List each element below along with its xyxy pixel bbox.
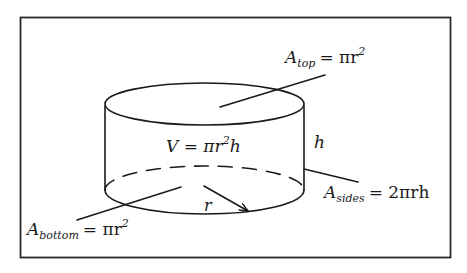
sides-area-label: Asides= 2πrh: [322, 182, 429, 205]
sides-area-leader: [304, 169, 358, 182]
bottom-area-leader: [77, 187, 181, 220]
radius-label: r: [204, 196, 213, 215]
volume-label: V = πr2h: [166, 134, 241, 156]
top-area-leader: [220, 75, 325, 107]
cylinder-diagram: Atop= πr2 V = πr2h h Asides= 2πrh Abotto…: [0, 0, 467, 273]
height-label: h: [314, 132, 325, 152]
cylinder-top-ellipse: [105, 83, 304, 125]
top-area-label: Atop= πr2: [283, 45, 365, 70]
